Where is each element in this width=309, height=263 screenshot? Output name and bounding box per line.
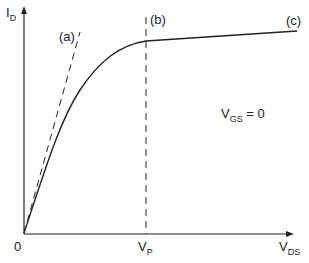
curve-label-b: (b) [150,13,166,26]
y-axis-arrow-icon [21,6,27,14]
jfet-characteristic-diagram: ID 0 VP VDS (a) (b) (c) VGS = 0 [0,0,309,263]
vp-label: VP [138,240,153,253]
diagram-graphics [0,0,309,263]
x-axis-arrow-icon [286,231,294,237]
vgs-annotation: VGS = 0 [221,107,265,120]
curve-label-a: (a) [59,30,75,43]
ohmic-tangent-line-a [24,32,80,233]
y-axis-label: ID [6,6,16,19]
curve-label-c: (c) [286,14,301,27]
drain-current-curve [24,31,297,233]
x-axis-label: VDS [279,240,300,253]
origin-label: 0 [14,240,21,253]
